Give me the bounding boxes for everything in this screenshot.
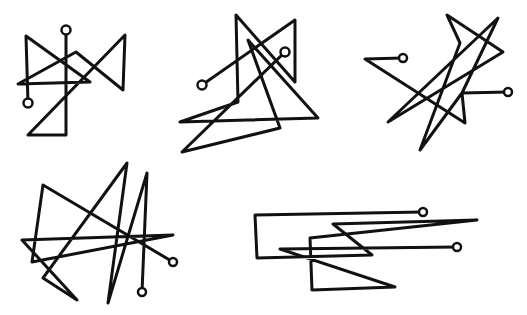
sigil-figure-4 (22, 163, 177, 303)
sigil-5-start-circle (419, 208, 427, 216)
sigil-5-path (255, 212, 477, 290)
sigil-4-start-circle (138, 288, 146, 296)
sigil-figure-3 (365, 15, 512, 150)
sigil-figure-1 (18, 26, 125, 136)
sigil-5-end-circle (453, 243, 461, 251)
sigil-canvas (0, 0, 527, 315)
sigil-3-start-circle (399, 54, 407, 62)
sigil-figure-5 (255, 208, 477, 290)
sigil-4-path (22, 163, 173, 303)
sigil-1-start-circle (62, 26, 71, 35)
sigil-4-end-circle (169, 258, 177, 266)
sigil-3-end-circle (504, 88, 512, 96)
sigil-3-path (365, 15, 508, 150)
sigil-1-path (18, 30, 125, 135)
sigil-figure-2 (180, 15, 318, 152)
sigil-1-end-circle (24, 99, 33, 108)
sigil-2-start-circle (198, 81, 207, 90)
sigil-2-end-circle (281, 48, 290, 57)
